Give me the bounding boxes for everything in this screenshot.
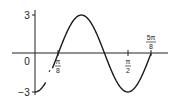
y-tick-label-neg3: −3 [18,87,30,98]
svg-text:5π: 5π [147,34,156,41]
y-tick-label-3: 3 [24,10,30,21]
curve-gap-mark [49,70,50,72]
svg-text:8: 8 [149,43,153,50]
x-tick-label-pi-2: π 2 [125,58,131,74]
sinusoid-plot: 3 −3 0 π 8 π 2 5π 8 [0,0,172,107]
svg-text:π: π [126,58,131,65]
x-tick-label-5pi-8: 5π 8 [146,34,156,50]
svg-text:2: 2 [126,67,130,74]
origin-label: 0 [24,56,30,67]
svg-text:8: 8 [56,67,60,74]
